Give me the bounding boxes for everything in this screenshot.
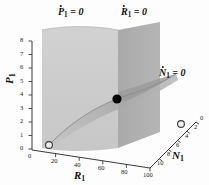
n-tick-6: 6 [176,142,179,149]
r-axis-title: R1 [74,170,85,183]
n-nullcline-symbol: N [159,68,166,78]
p-tick-4: 4 [20,91,23,98]
n-tick-0: 0 [200,115,203,122]
r-tick-100: 100 [143,172,153,179]
n-tick-4: 4 [185,133,188,140]
r-axis-title-sub: 1 [81,174,85,183]
p-tick-5: 5 [20,78,23,85]
p-nullcline-rhs: = 0 [70,6,83,17]
p-nullcline-label: P1 = 0 [58,7,83,19]
r-nullcline-symbol: R [121,7,128,17]
p-axis-title-sub: 1 [8,73,17,77]
n-nullcline-label: N1 = 0 [159,68,186,80]
p-nullcline-subscript: 1 [64,11,68,19]
r-tick-80: 80 [121,169,128,176]
r-nullcline-rhs: = 0 [134,6,147,17]
r-nullcline-subscript: 1 [128,11,132,19]
p-axis-title-base: P [3,77,15,84]
r-tick-0: 0 [28,153,31,160]
n-nullcline-subscript: 1 [166,72,170,80]
p-tick-7: 7 [20,51,23,58]
figure-container: P1 = 0 R1 = 0 N1 = 0 P1 R1 N1 8 7 6 5 4 … [0,0,209,185]
p-tick-2: 2 [20,118,23,125]
n-nullcline-rhs: = 0 [172,67,185,78]
n-tick-10: 10 [157,160,164,167]
n-axis-title-base: N [172,149,180,161]
p-tick-3: 3 [20,105,23,112]
p-tick-6: 6 [20,64,23,71]
p-tick-0: 0 [20,145,23,152]
p-nullcline-surface [42,27,118,151]
r-tick-20: 20 [51,158,58,165]
r-tick-40: 40 [74,162,81,169]
open-marker-left [46,142,53,149]
n-tick-8: 8 [167,151,170,158]
p-nullcline-symbol: P [58,7,64,17]
r-tick-60: 60 [98,165,105,172]
open-marker-right [178,121,185,128]
n-tick-2: 2 [194,124,197,131]
p-axis-ticks [29,41,33,149]
n-axis-title-sub: 1 [180,154,184,163]
r-nullcline-label: R1 = 0 [121,7,147,19]
p-tick-8: 8 [20,37,23,44]
p-axis-title: P1 [4,73,17,84]
equilibrium-point [112,94,121,103]
r-axis-line [32,150,150,168]
p-tick-1: 1 [20,132,23,139]
n-axis-title: N1 [172,150,184,163]
